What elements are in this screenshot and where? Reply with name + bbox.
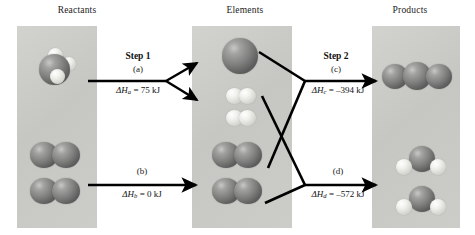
hydrogen-atom (239, 110, 256, 126)
delta-h-value: = –394 kJ (329, 85, 365, 95)
molecule-dioxygen (30, 142, 82, 168)
delta-h-subscript: d (323, 192, 326, 199)
oxygen-atom (426, 64, 452, 89)
molecule-dihydrogen (226, 88, 258, 104)
molecule-dioxygen (212, 142, 264, 168)
molecule-dioxygen (212, 178, 264, 204)
oxygen-atom (52, 142, 80, 168)
delta-h-symbol: ΔH (116, 85, 128, 95)
delta-h-value: = –572 kJ (329, 189, 365, 199)
delta-h-symbol: ΔH (312, 85, 324, 95)
stepb-enthalpy: ΔHb = 0 kJ (97, 189, 187, 199)
hydrogen-atom (50, 69, 65, 84)
hydrogen-atom (396, 159, 412, 175)
figure-canvas: Reactants Elements Products (0, 0, 475, 235)
oxygen-atom (234, 178, 262, 204)
molecule-water (396, 146, 446, 176)
molecule-dioxygen (30, 178, 82, 204)
hydrogen-atom (430, 159, 446, 175)
delta-h-subscript: a (128, 88, 131, 95)
molecule-methane (36, 48, 80, 90)
hydrogen-atom (396, 199, 412, 215)
molecule-dihydrogen (226, 110, 258, 126)
stepd-sublabel: (d) (298, 166, 378, 176)
oxygen-atom (234, 142, 262, 168)
molecule-water (396, 186, 446, 216)
step1-sublabel: (a) (98, 64, 178, 74)
hydrogen-atom (239, 88, 256, 104)
delta-h-symbol: ΔH (312, 189, 324, 199)
step2-sublabel: (c) (296, 64, 376, 74)
molecule-carbon (222, 38, 258, 74)
delta-h-symbol: ΔH (122, 189, 134, 199)
delta-h-value: = 0 kJ (140, 189, 162, 199)
step2-enthalpy: ΔHc = –394 kJ (290, 85, 386, 95)
oxygen-atom (52, 178, 80, 204)
stepb-sublabel: (b) (102, 166, 182, 176)
delta-h-subscript: b (134, 192, 137, 199)
column-title-reactants: Reactants (22, 5, 132, 15)
column-title-elements: Elements (180, 5, 310, 15)
molecule-carbon-dioxide (382, 62, 454, 90)
step1-title: Step 1 (98, 51, 178, 61)
column-title-products: Products (355, 5, 465, 15)
stepd-enthalpy: ΔHd = –572 kJ (290, 189, 386, 199)
carbon-atom (222, 38, 258, 74)
delta-h-subscript: c (324, 88, 327, 95)
step2-title: Step 2 (296, 51, 376, 61)
delta-h-value: = 75 kJ (133, 85, 160, 95)
hydrogen-atom (430, 199, 446, 215)
step1-enthalpy: ΔHa = 75 kJ (93, 85, 183, 95)
